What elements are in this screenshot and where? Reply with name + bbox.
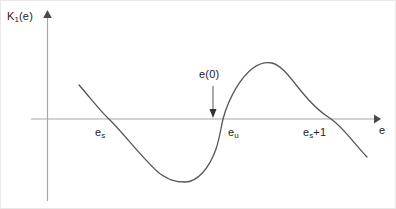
label-e-s-plus-1-subscript: s: [309, 131, 313, 140]
y-axis-label-base: K: [7, 10, 15, 22]
label-e-s: es: [95, 127, 105, 138]
y-axis-label: K1(e): [7, 11, 33, 22]
label-e-s-plus-1: es+1: [303, 127, 326, 138]
figure-container: K1(e) es eu es+1 e(0) e: [0, 0, 396, 209]
e0-pointer-arrowhead: [210, 109, 217, 118]
label-e-zero: e(0): [199, 69, 219, 80]
x-axis-arrowhead: [374, 115, 381, 124]
y-axis-arrowhead: [43, 10, 52, 18]
label-e-u: eu: [228, 127, 239, 138]
plot-canvas: [1, 1, 396, 209]
x-axis-label: e: [379, 125, 385, 136]
label-e-s-subscript: s: [101, 131, 105, 140]
label-e-u-subscript: u: [234, 131, 238, 140]
y-axis-label-tail: (e): [19, 10, 33, 22]
label-e-s-plus-1-tail: +1: [313, 126, 326, 138]
y-axis-label-subscript: 1: [15, 15, 19, 24]
k1-curve: [79, 63, 367, 182]
